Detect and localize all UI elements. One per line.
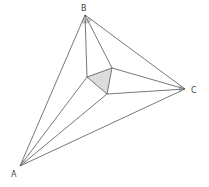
- trisector-a-to-p: [20, 77, 87, 166]
- morley-diagram: A B C: [0, 0, 209, 187]
- trisector-b-to-p: [85, 15, 87, 77]
- vertex-label-b: B: [81, 4, 87, 13]
- trisector-a-to-r: [20, 94, 107, 166]
- trisector-c-to-q: [112, 68, 185, 89]
- inner-morley-triangle: [87, 68, 112, 94]
- trisector-c-to-r: [107, 89, 185, 94]
- trisector-b-to-q: [85, 15, 112, 68]
- vertex-label-a: A: [11, 170, 17, 179]
- vertex-label-c: C: [191, 86, 197, 95]
